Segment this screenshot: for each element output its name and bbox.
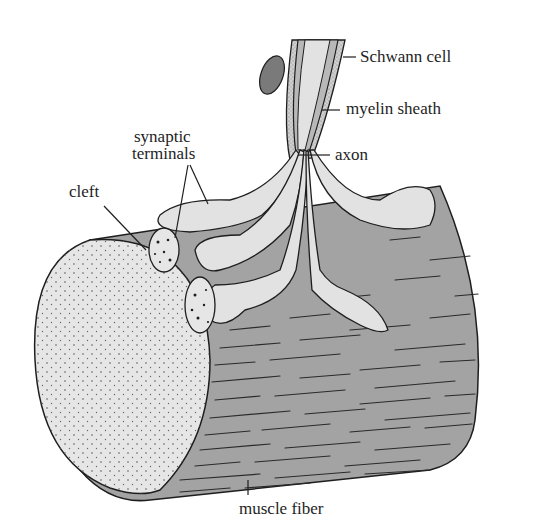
nerve-fiber: [255, 40, 345, 160]
label-schwann-cell: Schwann cell: [360, 48, 451, 65]
label-cleft: cleft: [69, 183, 99, 200]
label-synaptic-terminals-line2: terminals: [132, 145, 195, 162]
diagram-illustration: [0, 0, 534, 532]
label-axon: axon: [335, 146, 368, 163]
label-muscle-fiber: muscle fiber: [239, 500, 324, 517]
terminal-cross-section-2: [185, 277, 215, 333]
schwann-cell-nucleus: [255, 52, 289, 97]
label-synaptic-terminals-line1: synaptic: [134, 128, 191, 145]
terminal-cross-section-1: [149, 228, 179, 272]
neuromuscular-junction-diagram: Schwann cell myelin sheath axon synaptic…: [0, 0, 534, 532]
label-myelin-sheath: myelin sheath: [346, 100, 441, 117]
